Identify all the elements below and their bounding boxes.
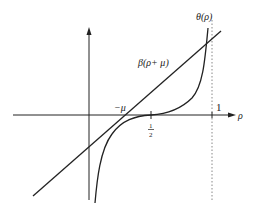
x-axis-label: ρ: [237, 110, 243, 121]
half-numerator: 1: [149, 122, 153, 130]
one-label: 1: [216, 101, 222, 113]
x-axis-arrow-icon: [228, 113, 236, 118]
beta-line: [33, 31, 221, 196]
diagram-svg: θ(ρ) β(ρ+ μ) −μ 1 2 1 ρ: [0, 0, 253, 211]
beta-label: β(ρ+ μ): [137, 57, 169, 69]
half-denominator: 2: [149, 131, 153, 139]
diagram-canvas: θ(ρ) β(ρ+ μ) −μ 1 2 1 ρ: [0, 0, 253, 211]
neg-mu-label: −μ: [114, 102, 126, 113]
theta-label: θ(ρ): [196, 11, 213, 23]
y-axis-arrow-icon: [87, 27, 92, 35]
